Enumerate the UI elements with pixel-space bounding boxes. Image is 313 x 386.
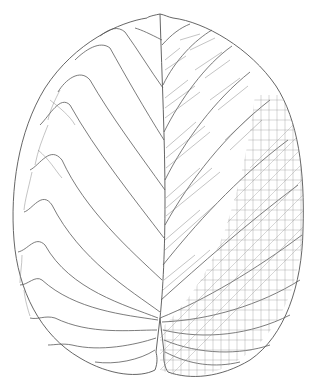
leaf-illustration xyxy=(0,0,313,386)
left-secondary-veins xyxy=(18,28,165,363)
leaf-outline xyxy=(13,14,303,376)
right-tertiary-veins xyxy=(163,34,262,290)
midrib xyxy=(160,14,165,318)
leaf-drawing xyxy=(0,0,313,386)
reticulate-mesh xyxy=(150,95,313,386)
